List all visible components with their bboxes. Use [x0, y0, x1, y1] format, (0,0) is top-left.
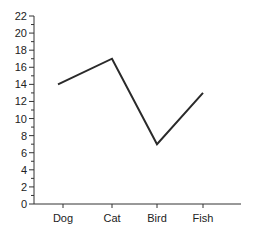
- y-axis: 0246810121416182022: [15, 10, 34, 210]
- x-tick-label-cat: Cat: [103, 212, 120, 224]
- y-tick-label: 0: [21, 198, 27, 210]
- x-axis: DogCatBirdFish: [34, 204, 241, 224]
- y-tick-label: 16: [15, 61, 27, 73]
- line-chart: 0246810121416182022 DogCatBirdFish: [0, 0, 253, 236]
- series-line: [58, 59, 203, 145]
- y-tick-label: 4: [21, 164, 27, 176]
- y-tick-label: 6: [21, 147, 27, 159]
- y-tick-label: 10: [15, 113, 27, 125]
- y-tick-label: 2: [21, 181, 27, 193]
- y-tick-label: 22: [15, 10, 27, 22]
- y-tick-label: 12: [15, 95, 27, 107]
- data-series: [58, 59, 203, 145]
- y-tick-label: 18: [15, 44, 27, 56]
- y-tick-label: 20: [15, 27, 27, 39]
- x-tick-label-fish: Fish: [193, 212, 214, 224]
- x-tick-label-dog: Dog: [53, 212, 73, 224]
- y-tick-label: 8: [21, 130, 27, 142]
- x-tick-label-bird: Bird: [147, 212, 167, 224]
- y-tick-label: 14: [15, 78, 27, 90]
